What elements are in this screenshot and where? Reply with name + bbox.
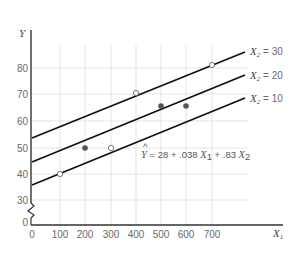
x-tick: 0 xyxy=(29,229,35,240)
x-tick: 100 xyxy=(52,229,69,240)
y-tick: 0 xyxy=(22,217,28,228)
point-open xyxy=(57,171,62,176)
point-open xyxy=(209,62,214,67)
x-tick: 700 xyxy=(204,229,221,240)
line-x2-10 xyxy=(32,98,245,185)
line-label-x2-10: X2 = 10 xyxy=(249,92,283,106)
axes xyxy=(28,30,283,225)
y-tick: 50 xyxy=(17,143,29,154)
y-tick: 80 xyxy=(17,63,29,74)
point-filled xyxy=(183,103,189,109)
line-label-x2-20: X2 = 20 xyxy=(249,69,283,83)
regression-chart: 80 70 60 50 40 30 0 0 100 200 300 400 50… xyxy=(0,0,303,254)
x-tick: 200 xyxy=(77,229,94,240)
regression-equation: ^ Y = 28 + .038 X1 + .83 X2 xyxy=(141,141,250,162)
axis-break-icon xyxy=(28,203,34,225)
line-label-x2-30: X2 = 30 xyxy=(249,45,283,59)
regression-lines xyxy=(32,52,245,185)
y-tick: 70 xyxy=(17,89,29,100)
x-tick: 500 xyxy=(153,229,170,240)
y-tick-labels: 80 70 60 50 40 30 0 xyxy=(17,63,29,228)
point-filled xyxy=(82,145,88,151)
point-filled xyxy=(158,103,164,109)
y-axis-label: Y xyxy=(19,27,27,39)
x-tick: 600 xyxy=(178,229,195,240)
grid xyxy=(32,45,248,225)
x-tick: 300 xyxy=(103,229,120,240)
point-open xyxy=(133,90,138,95)
x-axis-label: X1 xyxy=(272,227,283,241)
x-tick-labels: 0 100 200 300 400 500 600 700 xyxy=(29,229,221,240)
y-tick: 30 xyxy=(17,195,29,206)
point-open xyxy=(108,145,113,150)
y-tick: 60 xyxy=(17,116,29,127)
x-tick: 400 xyxy=(128,229,145,240)
y-tick: 40 xyxy=(17,169,29,180)
equation-text: Y = 28 + .038 X1 + .83 X2 xyxy=(141,149,250,162)
